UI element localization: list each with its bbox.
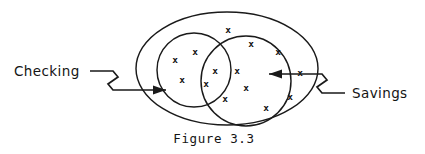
x-mark: x — [234, 65, 240, 76]
arrow-head-left-icon — [269, 70, 282, 79]
x-marks-intersection: x x — [203, 65, 218, 89]
x-marks-left-circle: x x x — [172, 46, 198, 85]
x-mark: x — [172, 54, 178, 65]
figure-container: x x x x x x x x x x x x x x — [0, 0, 425, 154]
arrow-head-right-icon — [153, 86, 166, 95]
x-mark: x — [212, 65, 218, 76]
x-mark: x — [275, 46, 281, 57]
x-mark: x — [179, 74, 185, 85]
x-marks-right-circle: x x x — [222, 65, 249, 104]
venn-diagram: x x x x x x x x x x x x x x — [0, 0, 425, 154]
x-mark: x — [263, 102, 269, 113]
x-mark: x — [222, 93, 228, 104]
leader-line-checking — [90, 71, 166, 95]
x-mark: x — [248, 38, 254, 49]
x-mark: x — [203, 78, 209, 89]
x-mark: x — [192, 46, 198, 57]
label-checking: Checking — [14, 63, 80, 79]
label-savings: Savings — [352, 85, 408, 101]
figure-caption: Figure 3.3 — [173, 131, 254, 146]
x-mark: x — [287, 91, 293, 102]
x-mark: x — [243, 82, 249, 93]
leader-line-savings — [269, 70, 345, 94]
x-mark: x — [225, 24, 231, 35]
x-mark: x — [297, 67, 303, 78]
